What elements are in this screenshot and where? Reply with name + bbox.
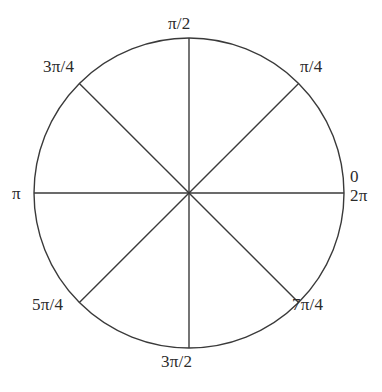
angle-label-five-pi-over-4: 5π/4 <box>32 295 63 314</box>
angle-label-seven-pi-over-4: 7π/4 <box>292 295 323 314</box>
angle-label-pi: π <box>12 184 21 203</box>
angle-label-three-pi-over-4: 3π/4 <box>43 57 74 76</box>
angle-label-pi-over-2: π/2 <box>168 14 190 33</box>
angle-label-two-pi: 2π <box>350 186 367 205</box>
unit-circle-figure: π/2 π/4 0 2π 7π/4 3π/2 5π/4 π 3π/4 <box>0 0 382 392</box>
angle-label-three-pi-over-2: 3π/2 <box>161 352 192 371</box>
angle-label-zero: 0 <box>350 167 367 186</box>
angle-label-zero-two-pi: 0 2π <box>350 167 367 205</box>
angle-label-pi-over-4: π/4 <box>300 57 322 76</box>
